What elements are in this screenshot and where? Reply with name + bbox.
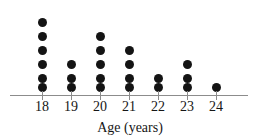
data-dot xyxy=(96,60,105,69)
dot-stack xyxy=(119,41,139,92)
data-dot xyxy=(38,46,47,55)
dot-stack xyxy=(90,27,110,92)
dot-plot-figure: 18192021222324 Age (years) xyxy=(0,0,260,140)
data-dot xyxy=(125,60,134,69)
dot-stacks-area xyxy=(0,0,260,92)
dot-stack xyxy=(148,69,168,92)
x-axis-title: Age (years) xyxy=(0,119,260,136)
dot-stack xyxy=(61,55,81,92)
dot-stack xyxy=(177,55,197,92)
data-dot xyxy=(38,32,47,41)
data-dot xyxy=(183,60,192,69)
data-dot xyxy=(96,32,105,41)
data-dot xyxy=(67,74,76,83)
data-dot xyxy=(125,46,134,55)
data-dot xyxy=(154,74,163,83)
data-dot xyxy=(96,74,105,83)
dot-stack xyxy=(32,13,52,92)
data-dot xyxy=(96,46,105,55)
data-dot xyxy=(183,74,192,83)
data-dot xyxy=(38,60,47,69)
data-dot xyxy=(67,60,76,69)
data-dot xyxy=(38,18,47,27)
tick-label: 24 xyxy=(199,99,233,115)
data-dot xyxy=(125,74,134,83)
data-dot xyxy=(38,74,47,83)
